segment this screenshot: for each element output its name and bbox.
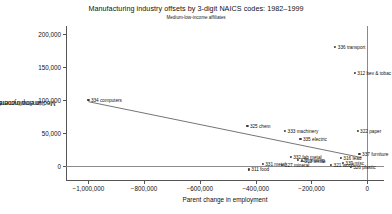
x-tick	[367, 180, 368, 184]
data-point-label: 334 computers	[91, 97, 122, 102]
scatter-chart: Manufacturing industry offsets by 3-digi…	[0, 0, 392, 214]
x-tick	[256, 180, 257, 184]
x-tick	[88, 180, 89, 184]
x-tick-label: −800,000	[131, 185, 157, 192]
data-point-label: 322 paper	[360, 129, 381, 134]
x-tick-label: −1,000,000	[72, 185, 104, 192]
data-point-label: 335 electric	[303, 137, 327, 142]
y-axis-title: Medium/low income affiliate change in em…	[6, 26, 20, 180]
x-tick-label: −200,000	[298, 185, 324, 192]
data-point-label: 325 chem	[250, 124, 271, 129]
x-tick	[144, 180, 145, 184]
data-point-label: 326 plastic	[353, 164, 375, 169]
data-point-label: 312 bev & tobac	[357, 70, 391, 75]
x-axis-title: Parent change in employment	[66, 196, 384, 203]
y-tick-label: 100,000	[38, 96, 61, 103]
y-tick-label: 50,000	[42, 129, 61, 136]
fit-line	[66, 26, 384, 180]
x-tick-label: −600,000	[187, 185, 213, 192]
x-tick	[200, 180, 201, 184]
plot-area: 050,000100,000150,000200,000 −1,000,000−…	[66, 26, 384, 180]
data-point-label: 337 furniture	[362, 151, 388, 156]
y-tick-label: 200,000	[38, 30, 61, 37]
y-tick-label: 150,000	[38, 63, 61, 70]
data-point-label: 311 food	[251, 167, 269, 172]
data-point-label: 327 mineral	[285, 162, 310, 167]
x-tick-label: −400,000	[242, 185, 268, 192]
x-tick-label: 0	[365, 185, 369, 192]
x-axis-line	[66, 180, 384, 181]
chart-subtitle: Medium-low-income affiliates	[0, 15, 392, 20]
data-point-label: 333 machinery	[288, 129, 319, 134]
chart-title: Manufacturing industry offsets by 3-digi…	[0, 4, 392, 13]
data-point-label: 336 transport	[338, 45, 366, 50]
fit-line-segment	[88, 102, 361, 158]
x-tick	[311, 180, 312, 184]
y-tick-label: 0	[57, 162, 61, 169]
